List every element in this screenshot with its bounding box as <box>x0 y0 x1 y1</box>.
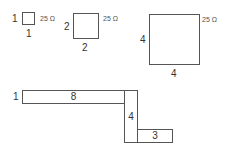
square-1-bottom-label: 1 <box>26 29 32 39</box>
square-2-side-label: 2 <box>64 22 70 32</box>
strip-segment-top-label: 8 <box>23 92 124 102</box>
square-2-resistance-label: 25 Ω <box>103 15 118 22</box>
square-2-bottom-label: 2 <box>82 43 88 53</box>
square-1 <box>22 12 35 25</box>
square-4-bottom-label: 4 <box>171 69 177 79</box>
square-4 <box>149 14 200 65</box>
square-4-resistance-label: 25 Ω <box>202 16 217 23</box>
square-1-side-label: 1 <box>12 14 18 24</box>
strip-segment-bottom: 3 <box>137 129 173 143</box>
square-4-side-label: 4 <box>140 35 146 45</box>
strip-segment-vertical: 4 <box>124 90 138 143</box>
square-2 <box>73 13 99 39</box>
strip-segment-vertical-label: 4 <box>125 112 137 122</box>
strip-segment-top: 8 <box>22 90 125 104</box>
strip-segment-bottom-label: 3 <box>138 131 172 141</box>
strip-width-label: 1 <box>13 92 19 102</box>
square-1-resistance-label: 25 Ω <box>40 15 55 22</box>
